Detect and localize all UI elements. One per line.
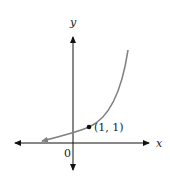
origin-label: 0 <box>64 147 71 160</box>
point-1-1 <box>87 125 92 130</box>
graph: (1, 1) y x 0 <box>0 0 170 177</box>
point-label: (1, 1) <box>94 121 124 134</box>
y-axis-label: y <box>69 16 77 29</box>
x-axis-label: x <box>156 137 163 150</box>
